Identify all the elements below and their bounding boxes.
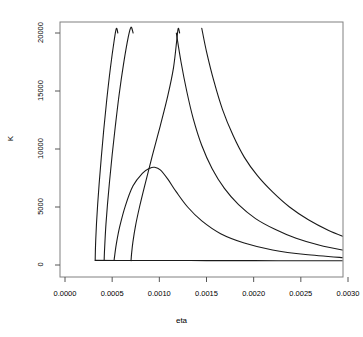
x-tick-label: 0.0025 <box>278 289 324 298</box>
plot-canvas <box>0 0 363 337</box>
y-tick-label: 20000 <box>36 18 45 48</box>
y-tick-label: 10000 <box>36 134 45 164</box>
x-axis-title: eta <box>0 316 363 325</box>
x-tick-label: 0.0015 <box>184 289 230 298</box>
chart-figure: eta K 0.00000.00050.00100.00150.00200.00… <box>0 0 363 337</box>
x-tick-label: 0.0000 <box>42 289 88 298</box>
y-tick-label: 15000 <box>36 76 45 106</box>
y-axis-title: K <box>6 136 15 141</box>
x-tick-label: 0.0010 <box>136 289 182 298</box>
x-tick-label: 0.0030 <box>325 289 363 298</box>
x-tick-label: 0.0005 <box>89 289 135 298</box>
figure-background <box>0 0 363 337</box>
y-tick-label: 5000 <box>36 192 45 222</box>
y-tick-label: 0 <box>36 250 45 280</box>
x-tick-label: 0.0020 <box>231 289 277 298</box>
